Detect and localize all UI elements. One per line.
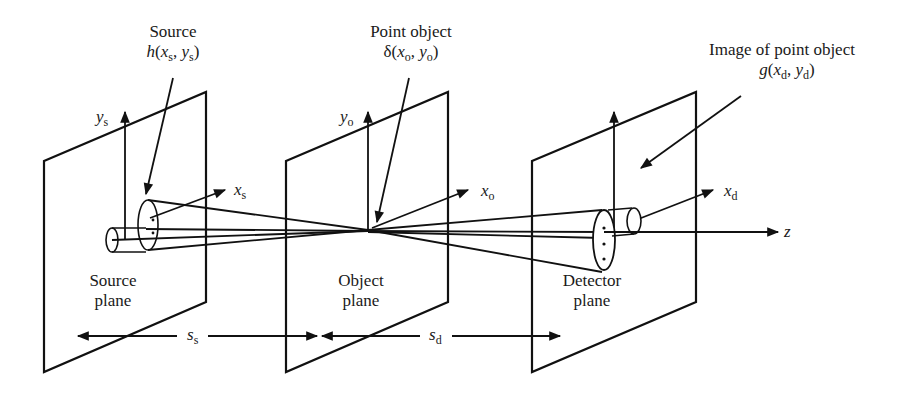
object-plane-label: Object plane [338,271,383,311]
distance-ss-label: ss [187,325,198,350]
detector-image-spot [593,208,641,270]
object-y-axis-label: yo [340,107,354,132]
source-x-axis-label: xs [234,180,246,205]
source-callout-function: h(xs, ys) [147,42,200,67]
detector-x-axis-label: xd [724,181,738,206]
distance-sd-label: sd [429,325,442,350]
source-callout: Source h(xs, ys) [147,22,200,67]
imaging-geometry-diagram: Source h(xs, ys) Point object δ(xo, yo) … [0,0,919,400]
z-axis-label: z [784,222,791,242]
point-object-callout-arrow [377,78,409,222]
source-callout-arrow [146,78,173,194]
detector-plane-label-line2: plane [563,291,622,311]
object-plane-label-line2: plane [338,291,383,311]
detector-x-axis [636,190,713,220]
point-object-callout-function: δ(xo, yo) [370,42,452,67]
image-callout: Image of point object g(xd, yd) [709,40,855,85]
detector-plane-label-line1: Detector [563,271,622,291]
image-callout-function: g(xd, yd) [709,60,855,85]
image-callout-arrow [641,96,741,168]
point-object-callout-title: Point object [370,22,452,42]
source-plane-label-line1: Source [89,271,136,291]
detector-plane-label: Detector plane [563,271,622,311]
projection-rays [112,200,602,272]
source-callout-title: Source [147,22,200,42]
image-callout-title: Image of point object [709,40,855,60]
source-x-axis [150,190,225,218]
object-plane-label-line1: Object [338,271,383,291]
point-object-callout: Point object δ(xo, yo) [370,22,452,67]
source-plane-label: Source plane [89,271,136,311]
source-plane-label-line2: plane [89,291,136,311]
object-x-axis-label: xo [481,181,495,206]
source-y-axis-label: ys [96,107,108,132]
